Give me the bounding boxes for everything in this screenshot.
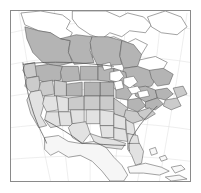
map-figure bbox=[0, 0, 201, 193]
map-frame-border bbox=[10, 10, 191, 182]
north-america-map bbox=[11, 11, 190, 181]
